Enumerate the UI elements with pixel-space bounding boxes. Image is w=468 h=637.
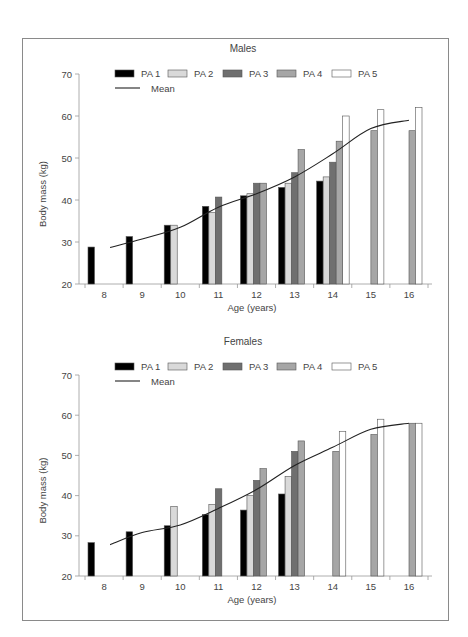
legend-item-pa3: PA 3 — [223, 68, 268, 79]
svg-text:Mean: Mean — [151, 83, 175, 94]
legend-item-mean: Mean — [115, 83, 175, 94]
svg-text:PA 4: PA 4 — [303, 68, 322, 79]
x-tick-label: 12 — [251, 289, 262, 300]
legend-item-pa3: PA 3 — [223, 361, 268, 372]
y-tick-label: 30 — [61, 530, 72, 541]
bar-pa5-age-14 — [339, 431, 346, 576]
bar-pa2-age-12 — [247, 194, 254, 284]
chart-panel-males: MalesPA 1PA 2PA 3PA 4PA 5Mean20304050607… — [37, 43, 432, 313]
x-tick-label: 10 — [175, 581, 186, 592]
x-tick-label: 12 — [251, 581, 262, 592]
x-tick-label: 9 — [140, 289, 145, 300]
bar-pa4-age-14 — [336, 141, 343, 284]
legend-item-pa4: PA 4 — [277, 68, 322, 79]
x-tick-label: 11 — [213, 581, 223, 592]
y-tick-label: 30 — [61, 237, 72, 248]
y-tick-label: 20 — [61, 279, 72, 290]
x-tick-label: 16 — [404, 581, 415, 592]
svg-text:Mean: Mean — [151, 376, 175, 387]
svg-text:PA 5: PA 5 — [358, 361, 377, 372]
bar-pa2-age-11 — [209, 504, 216, 576]
y-tick-label: 40 — [61, 490, 72, 501]
y-tick-label: 70 — [61, 69, 72, 80]
bar-pa2-age-11 — [209, 213, 216, 284]
bar-pa4-age-14 — [333, 451, 340, 576]
chart-panel-females: FemalesPA 1PA 2PA 3PA 4PA 5Mean203040506… — [37, 336, 432, 605]
y-tick-label: 40 — [61, 195, 72, 206]
y-tick-label: 20 — [61, 571, 72, 582]
x-tick-label: 8 — [101, 581, 106, 592]
bar-pa2-age-10 — [171, 506, 178, 576]
bar-pa4-age-15 — [371, 434, 378, 576]
x-tick-label: 15 — [366, 581, 377, 592]
svg-text:PA 4: PA 4 — [303, 361, 322, 372]
bar-pa5-age-15 — [377, 419, 384, 576]
legend-item-mean: Mean — [115, 376, 175, 387]
svg-text:PA 3: PA 3 — [249, 361, 268, 372]
svg-text:PA 3: PA 3 — [249, 68, 268, 79]
chart-title: Females — [224, 336, 262, 347]
bar-pa1-age-12 — [240, 510, 247, 576]
x-tick-label: 9 — [140, 581, 145, 592]
bar-pa3-age-12 — [253, 183, 260, 284]
legend-item-pa1: PA 1 — [115, 68, 160, 79]
x-axis-label: Age (years) — [227, 302, 276, 313]
y-tick-label: 50 — [61, 153, 72, 164]
bar-pa2-age-10 — [171, 225, 178, 284]
bar-pa4-age-16 — [409, 423, 416, 576]
y-tick-label: 70 — [61, 370, 72, 381]
x-tick-label: 8 — [101, 289, 106, 300]
x-tick-label: 14 — [327, 289, 338, 300]
bar-pa5-age-15 — [377, 110, 384, 284]
bar-pa4-age-15 — [371, 131, 378, 284]
svg-text:PA 1: PA 1 — [141, 68, 160, 79]
x-axis-label: Age (years) — [227, 594, 276, 605]
bar-pa1-age-13 — [279, 494, 286, 576]
bar-pa5-age-14 — [343, 116, 350, 284]
bar-pa4-age-13 — [298, 150, 305, 284]
bar-pa1-age-12 — [240, 196, 247, 284]
chart-title: Males — [230, 43, 257, 54]
legend-item-pa2: PA 2 — [168, 361, 213, 372]
x-tick-label: 15 — [366, 289, 377, 300]
x-tick-label: 13 — [289, 581, 300, 592]
legend-item-pa1: PA 1 — [115, 361, 160, 372]
bar-pa5-age-16 — [416, 423, 423, 576]
bar-pa1-age-9 — [126, 532, 133, 576]
bar-pa1-age-10 — [164, 526, 171, 576]
bar-pa1-age-11 — [202, 206, 209, 284]
bar-pa4-age-12 — [260, 469, 267, 576]
x-tick-label: 16 — [404, 289, 415, 300]
bar-pa5-age-16 — [416, 108, 423, 284]
y-axis-label: Body mass (kg) — [37, 161, 48, 227]
legend-item-pa2: PA 2 — [168, 68, 213, 79]
chart-canvas: MalesPA 1PA 2PA 3PA 4PA 5Mean20304050607… — [0, 0, 468, 637]
bar-pa3-age-11 — [215, 489, 222, 576]
bar-pa3-age-12 — [253, 480, 260, 576]
x-tick-label: 11 — [213, 289, 223, 300]
svg-text:PA 2: PA 2 — [194, 361, 213, 372]
legend-item-pa5: PA 5 — [332, 361, 377, 372]
bar-pa3-age-11 — [215, 197, 222, 284]
bar-pa2-age-12 — [247, 496, 254, 576]
bar-pa1-age-8 — [88, 543, 95, 576]
svg-text:PA 5: PA 5 — [358, 68, 377, 79]
bar-pa3-age-13 — [292, 451, 299, 576]
bar-pa1-age-13 — [279, 187, 286, 284]
svg-text:PA 1: PA 1 — [141, 361, 160, 372]
bar-pa4-age-12 — [260, 183, 267, 284]
legend-item-pa4: PA 4 — [277, 361, 322, 372]
y-tick-label: 50 — [61, 450, 72, 461]
legend-item-pa5: PA 5 — [332, 68, 377, 79]
svg-text:PA 2: PA 2 — [194, 68, 213, 79]
bar-pa3-age-13 — [292, 173, 299, 284]
x-tick-label: 13 — [289, 289, 300, 300]
y-axis-label: Body mass (kg) — [37, 458, 48, 524]
y-tick-label: 60 — [61, 111, 72, 122]
bar-pa1-age-10 — [164, 225, 171, 284]
bar-pa2-age-14 — [323, 177, 330, 284]
bar-pa4-age-16 — [409, 131, 416, 284]
x-tick-label: 14 — [327, 581, 338, 592]
bar-pa1-age-14 — [317, 181, 324, 284]
y-tick-label: 60 — [61, 410, 72, 421]
